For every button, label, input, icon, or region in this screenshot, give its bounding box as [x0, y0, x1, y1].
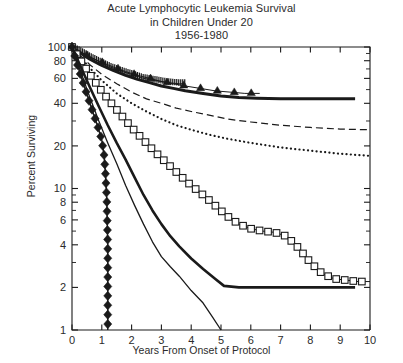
marker-square: [311, 263, 318, 270]
chart-plot-area: 012345678910124681020406080100: [0, 0, 403, 363]
marker-square: [192, 186, 199, 193]
marker-square: [225, 214, 232, 221]
marker-square: [98, 86, 105, 93]
marker-square: [108, 100, 115, 107]
marker-triangle: [230, 88, 238, 95]
marker-diamond: [102, 188, 110, 197]
marker-square: [341, 277, 348, 284]
marker-square: [265, 228, 272, 235]
marker-square: [167, 163, 174, 170]
series-cohort-1958-1961: [72, 47, 355, 287]
marker-diamond: [104, 235, 112, 244]
y-tick-label: 60: [54, 72, 66, 84]
marker-triangle: [196, 84, 204, 91]
marker-square: [199, 191, 206, 198]
marker-square: [350, 278, 357, 285]
marker-diamond: [103, 197, 111, 206]
marker-square: [300, 250, 307, 257]
series-line: [72, 47, 370, 130]
marker-diamond: [101, 160, 109, 169]
marker-triangle: [247, 89, 255, 96]
marker-square: [114, 107, 121, 114]
marker-diamond: [104, 301, 112, 310]
marker-square: [359, 278, 366, 285]
y-tick-label: 40: [54, 97, 66, 109]
marker-square: [232, 218, 239, 225]
marker-diamond: [104, 310, 112, 319]
marker-triangle: [213, 86, 221, 93]
marker-square: [294, 244, 301, 251]
marker-diamond: [103, 216, 111, 225]
y-tick-label: 20: [54, 140, 66, 152]
marker-diamond: [88, 105, 96, 114]
marker-square: [88, 72, 95, 79]
marker-diamond: [103, 207, 111, 216]
series-line: [72, 47, 370, 156]
series-line: [72, 47, 355, 287]
marker-square: [103, 93, 110, 100]
marker-square: [256, 227, 263, 234]
marker-square: [136, 133, 143, 140]
marker-square: [179, 175, 186, 182]
marker-diamond: [91, 114, 99, 123]
marker-square: [142, 139, 149, 146]
chart-figure: Acute Lymphocytic Leukemia Survival in C…: [0, 0, 403, 363]
y-tick-label: 2: [60, 281, 66, 293]
marker-square: [160, 157, 167, 164]
marker-square: [248, 225, 255, 232]
marker-square: [154, 151, 161, 158]
y-tick-label: 1: [60, 324, 66, 336]
marker-square: [273, 230, 280, 237]
marker-diamond: [99, 141, 107, 150]
marker-square: [240, 222, 247, 229]
y-tick-label: 10: [54, 182, 66, 194]
marker-square: [325, 273, 332, 280]
marker-square: [206, 197, 213, 204]
marker-square: [92, 80, 99, 87]
y-tick-label: 100: [48, 41, 66, 53]
y-tick-label: 80: [54, 55, 66, 67]
marker-square: [219, 208, 226, 215]
y-tick-label: 6: [60, 214, 66, 226]
marker-square: [317, 269, 324, 276]
marker-diamond: [104, 263, 112, 272]
x-axis-label: Years From Onset of Protocol: [0, 344, 403, 356]
marker-square: [281, 232, 288, 239]
marker-square: [125, 120, 132, 127]
marker-diamond: [104, 272, 112, 281]
marker-triangle: [163, 78, 171, 85]
marker-diamond: [104, 254, 112, 263]
marker-diamond: [104, 291, 112, 300]
marker-diamond: [103, 225, 111, 234]
series-cohort-1964-1967: [72, 47, 370, 156]
series-cohort-1961-1964: [69, 44, 370, 285]
marker-square: [130, 126, 137, 133]
marker-square: [186, 180, 193, 187]
y-axis-label: Percent Surviving: [25, 101, 37, 211]
marker-diamond: [104, 244, 112, 253]
marker-square: [212, 202, 219, 209]
marker-diamond: [104, 282, 112, 291]
marker-diamond: [104, 319, 112, 328]
marker-diamond: [101, 169, 109, 178]
y-tick-label: 8: [60, 196, 66, 208]
series-cohort-1967-1970: [72, 47, 370, 130]
marker-diamond: [100, 150, 108, 159]
marker-square: [119, 113, 126, 120]
y-tick-label: 4: [60, 239, 66, 251]
marker-diamond: [102, 179, 110, 188]
marker-square: [173, 169, 180, 176]
marker-square: [333, 276, 340, 283]
